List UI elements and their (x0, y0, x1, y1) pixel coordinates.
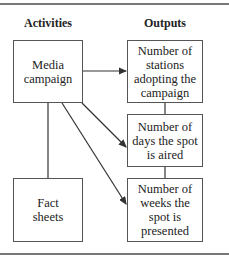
activity-fact-sheets: Fact sheets (13, 178, 83, 242)
output-label: Number of weeks the spot is presented (134, 182, 196, 238)
output-stations: Number of stations adopting the campaign (127, 40, 203, 103)
output-days: Number of days the spot is aired (127, 114, 203, 167)
output-label: Number of days the spot is aired (130, 120, 200, 162)
activity-label: Media campaign (22, 58, 74, 86)
activity-media-campaign: Media campaign (13, 40, 83, 103)
output-label: Number of stations adopting the campaign (130, 44, 200, 100)
activity-label: Fact sheets (28, 196, 68, 224)
output-weeks: Number of weeks the spot is presented (127, 178, 203, 242)
